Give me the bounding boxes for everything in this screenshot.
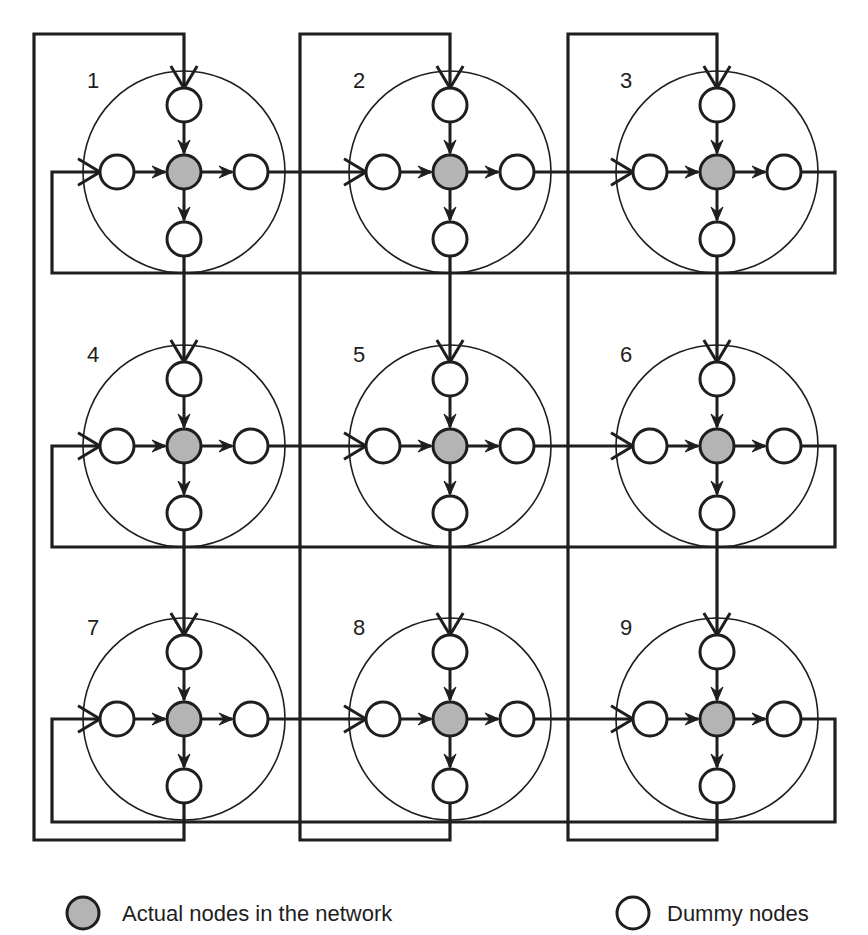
dummy-node-top (700, 362, 734, 396)
node-number-label: 4 (87, 342, 99, 367)
actual-node (700, 155, 734, 189)
dummy-node-bottom (433, 496, 467, 530)
actual-node (433, 429, 467, 463)
dummy-node-right (500, 429, 534, 463)
legend-actual-node-icon (67, 897, 99, 929)
actual-node (700, 429, 734, 463)
dummy-node-bottom (167, 222, 201, 256)
dummy-node-bottom (700, 769, 734, 803)
dummy-node-right (500, 155, 534, 189)
dummy-node-right (767, 702, 801, 736)
node-cluster-4: 4 (83, 342, 285, 547)
dummy-node-bottom (167, 496, 201, 530)
legend: Actual nodes in the network Dummy nodes (67, 897, 809, 929)
dummy-node-bottom (700, 222, 734, 256)
dummy-node-right (500, 702, 534, 736)
node-number-label: 6 (620, 342, 632, 367)
node-cluster-6: 6 (616, 342, 818, 547)
dummy-node-right (234, 702, 268, 736)
dummy-node-left (100, 155, 134, 189)
node-cluster-8: 8 (349, 615, 551, 820)
legend-actual-label: Actual nodes in the network (122, 901, 393, 926)
dummy-node-top (433, 635, 467, 669)
legend-dummy-node-icon (617, 897, 649, 929)
node-cluster-3: 3 (616, 68, 818, 273)
dummy-node-left (633, 155, 667, 189)
actual-node (433, 702, 467, 736)
legend-dummy-label: Dummy nodes (667, 901, 809, 926)
torus-network-diagram: 123456789 Actual nodes in the network Du… (0, 0, 868, 935)
node-number-label: 9 (620, 615, 632, 640)
dummy-node-top (167, 362, 201, 396)
dummy-node-top (700, 88, 734, 122)
dummy-node-bottom (433, 769, 467, 803)
dummy-node-right (234, 155, 268, 189)
dummy-node-top (167, 88, 201, 122)
dummy-node-left (100, 429, 134, 463)
node-number-label: 5 (353, 342, 365, 367)
node-number-label: 7 (87, 615, 99, 640)
dummy-node-left (366, 429, 400, 463)
dummy-node-right (767, 429, 801, 463)
node-cluster-9: 9 (616, 615, 818, 820)
dummy-node-bottom (433, 222, 467, 256)
actual-node (167, 155, 201, 189)
dummy-node-left (366, 702, 400, 736)
dummy-node-top (433, 88, 467, 122)
dummy-node-left (633, 702, 667, 736)
dummy-node-top (167, 635, 201, 669)
node-cluster-7: 7 (83, 615, 285, 820)
dummy-node-left (100, 702, 134, 736)
dummy-node-top (700, 635, 734, 669)
dummy-node-right (767, 155, 801, 189)
dummy-node-left (366, 155, 400, 189)
actual-node (167, 429, 201, 463)
node-cluster-1: 1 (83, 68, 285, 273)
dummy-node-left (633, 429, 667, 463)
node-cluster-2: 2 (349, 68, 551, 273)
dummy-node-bottom (700, 496, 734, 530)
dummy-node-top (433, 362, 467, 396)
node-number-label: 8 (353, 615, 365, 640)
actual-node (700, 702, 734, 736)
node-clusters: 123456789 (83, 68, 818, 820)
node-number-label: 1 (87, 68, 99, 93)
dummy-node-bottom (167, 769, 201, 803)
dummy-node-right (234, 429, 268, 463)
node-number-label: 2 (353, 68, 365, 93)
node-number-label: 3 (620, 68, 632, 93)
actual-node (167, 702, 201, 736)
node-cluster-5: 5 (349, 342, 551, 547)
actual-node (433, 155, 467, 189)
